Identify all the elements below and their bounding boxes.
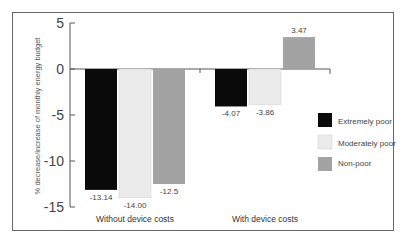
value-label-moderately-poor-with-device-costs: -3.86 <box>256 108 275 117</box>
legend: Extremely poor Moderately poor Non-poor <box>318 113 396 171</box>
value-label-non-poor-with-device-costs: 3.47 <box>291 26 307 35</box>
y-axis-ticks <box>70 23 75 207</box>
y-tick-neg15: -15 <box>44 199 64 215</box>
value-label-extremely-poor-with-device-costs: -4.07 <box>222 109 241 118</box>
y-axis-label: % decrease/increase of monthly energy bu… <box>33 37 42 195</box>
value-label-extremely-poor-without-device-costs: -13.14 <box>90 193 113 202</box>
legend-swatch-non-poor <box>318 157 332 171</box>
legend-swatch-extremely-poor <box>318 113 332 127</box>
value-label-non-poor-without-device-costs: -12.5 <box>160 187 179 196</box>
y-tick-5: 5 <box>56 15 64 31</box>
legend-label-non-poor: Non-poor <box>338 159 372 168</box>
category-label-without-device-costs: Without device costs <box>96 214 174 224</box>
value-label-moderately-poor-without-device-costs: -14.00 <box>124 201 147 210</box>
bar-extremely-poor-with-device-costs <box>215 69 247 106</box>
y-tick-labels: 5 0 -5 -10 -15 <box>44 15 64 215</box>
bar-chart: % decrease/increase of monthly energy bu… <box>0 0 406 241</box>
bar-non-poor-with-device-costs <box>283 37 315 69</box>
legend-label-extremely-poor: Extremely poor <box>338 117 392 126</box>
bar-moderately-poor-without-device-costs <box>119 69 151 198</box>
category-label-with-device-costs: With device costs <box>232 214 298 224</box>
bar-moderately-poor-with-device-costs <box>249 69 281 105</box>
bars-group <box>85 37 315 198</box>
y-tick-neg5: -5 <box>52 107 65 123</box>
bar-non-poor-without-device-costs <box>153 69 185 184</box>
legend-label-moderately-poor: Moderately poor <box>338 139 396 148</box>
legend-swatch-moderately-poor <box>318 135 332 149</box>
y-tick-neg10: -10 <box>44 153 64 169</box>
bar-extremely-poor-without-device-costs <box>85 69 117 190</box>
y-tick-0: 0 <box>56 61 64 77</box>
